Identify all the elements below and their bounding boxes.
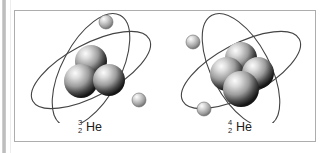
isotope-label-helium-3: 3 2 He [15,120,165,134]
atom-diagram-helium-4: 4 2 He [165,11,315,123]
isotope-label-helium-4: 4 2 He [165,120,315,134]
nucleon [223,71,259,107]
atom-helium-4-graphic [165,11,315,123]
atomic-number: 2 [78,127,82,134]
left-margin-stripe [2,0,6,153]
atom-diagram-helium-3: 3 2 He [15,11,165,123]
figure-screenshot: 3 2 He [0,0,332,153]
electrons-helium-4 [186,35,211,116]
element-symbol: He [236,121,252,134]
isotope-numbers: 3 2 [78,120,85,134]
atom-helium-3-graphic [15,11,165,123]
electron [132,93,146,107]
electron [197,102,211,116]
electron [99,15,113,29]
electron [186,35,200,49]
element-symbol: He [86,121,102,134]
nucleon [64,64,98,98]
mass-number: 4 [228,119,232,126]
nucleus-helium-3 [64,45,125,98]
page-edge-line [10,0,11,153]
figure-panel: 3 2 He [14,10,316,142]
isotope-numbers: 4 2 [228,120,235,134]
atomic-number: 2 [228,127,232,134]
nucleon [93,64,125,96]
mass-number: 3 [78,119,82,126]
